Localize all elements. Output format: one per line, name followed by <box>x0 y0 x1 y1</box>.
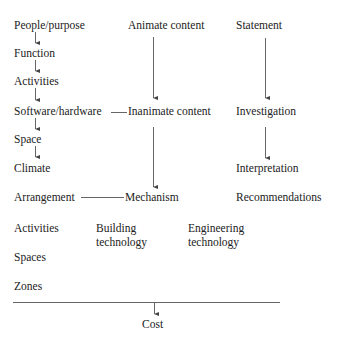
label-software-hardware: Software/hardware <box>14 105 102 118</box>
label-engineering: Engineering <box>188 222 244 235</box>
label-zones: Zones <box>14 280 42 293</box>
label-animate-content: Animate content <box>128 19 204 32</box>
label-inanimate-content: Inanimate content <box>128 105 211 118</box>
label-function: Function <box>14 47 55 60</box>
label-space: Space <box>14 133 41 146</box>
label-statement: Statement <box>236 19 282 32</box>
label-building: Building <box>96 222 136 235</box>
label-building-technology: technology <box>96 236 147 249</box>
label-cost: Cost <box>142 318 163 331</box>
label-activities: Activities <box>14 75 59 88</box>
label-spaces: Spaces <box>14 251 46 264</box>
label-activities-2: Activities <box>14 222 59 235</box>
label-arrangement: Arrangement <box>14 191 75 204</box>
label-investigation: Investigation <box>236 105 296 118</box>
label-engineering-technology: technology <box>188 236 239 249</box>
label-mechanism: Mechanism <box>125 191 179 204</box>
label-people-purpose: People/purpose <box>14 19 85 32</box>
label-recommendations: Recommendations <box>236 191 322 204</box>
label-interpretation: Interpretation <box>236 162 299 175</box>
label-climate: Climate <box>14 162 50 175</box>
